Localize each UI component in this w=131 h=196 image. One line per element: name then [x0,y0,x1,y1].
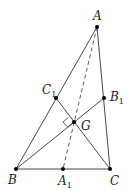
point-a1 [61,167,65,171]
label-c: C [110,174,119,188]
label-b1: B1 [109,90,124,106]
point-b [14,167,18,171]
point-b1 [102,96,106,100]
point-c [108,167,112,171]
median-aa1-dashed [63,27,97,169]
median-bb1 [16,98,104,169]
label-c1: C1 [42,83,56,99]
label-b: B [7,173,17,187]
label-g: G [81,119,91,133]
label-a1: A1 [57,174,72,190]
point-g [72,120,76,124]
triangle-diagram: A C1 B1 G B A1 C [0,0,131,196]
label-a: A [92,9,102,23]
point-a [95,25,99,29]
median-cc1 [56,98,110,169]
